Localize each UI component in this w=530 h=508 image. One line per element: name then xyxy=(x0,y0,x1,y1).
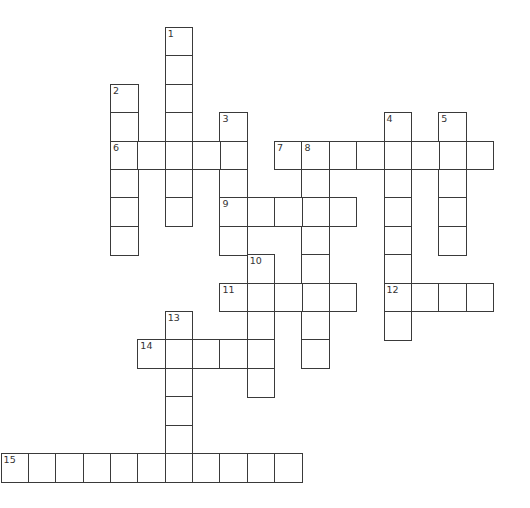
crossword-cell[interactable]: 5 xyxy=(438,112,467,142)
crossword-cell[interactable]: 13 xyxy=(165,311,194,341)
crossword-cell[interactable] xyxy=(329,197,358,227)
crossword-cell[interactable] xyxy=(165,425,194,455)
crossword-cell[interactable]: 3 xyxy=(219,112,248,142)
crossword-cell[interactable] xyxy=(165,339,194,369)
crossword-cell[interactable]: 12 xyxy=(384,283,413,313)
clue-number: 15 xyxy=(4,455,16,465)
crossword-cell[interactable] xyxy=(247,283,276,313)
crossword-cell[interactable]: 14 xyxy=(137,339,166,369)
crossword-cell[interactable]: 9 xyxy=(219,197,248,227)
crossword-cell[interactable] xyxy=(28,453,57,483)
crossword-cell[interactable] xyxy=(247,368,276,398)
crossword-cell[interactable] xyxy=(165,55,194,85)
clue-number: 7 xyxy=(277,143,283,153)
crossword-cell[interactable] xyxy=(55,453,84,483)
crossword-cell[interactable] xyxy=(301,311,330,341)
clue-number: 13 xyxy=(168,313,180,323)
crossword-cell[interactable] xyxy=(384,311,413,341)
crossword-cell[interactable]: 2 xyxy=(110,84,139,114)
crossword-cell[interactable] xyxy=(165,368,194,398)
crossword-cell[interactable] xyxy=(165,141,194,171)
crossword-cell[interactable] xyxy=(192,339,221,369)
crossword-cell[interactable] xyxy=(137,141,166,171)
crossword-cell[interactable] xyxy=(411,283,440,313)
crossword-cell[interactable] xyxy=(356,141,385,171)
crossword-cell[interactable] xyxy=(247,197,276,227)
crossword-cell[interactable] xyxy=(274,453,303,483)
crossword-cell[interactable]: 15 xyxy=(1,453,30,483)
crossword-cell[interactable] xyxy=(329,141,358,171)
crossword-cell[interactable]: 6 xyxy=(110,141,139,171)
crossword-cell[interactable] xyxy=(110,226,139,256)
clue-number: 12 xyxy=(387,285,399,295)
clue-number: 9 xyxy=(222,199,228,209)
crossword-cell[interactable] xyxy=(301,169,330,199)
crossword-cell[interactable] xyxy=(192,453,221,483)
clue-number: 14 xyxy=(140,341,152,351)
crossword-cell[interactable] xyxy=(329,283,358,313)
crossword-cell[interactable] xyxy=(219,339,248,369)
clue-number: 1 xyxy=(168,29,174,39)
crossword-cell[interactable] xyxy=(438,283,467,313)
crossword-cell[interactable] xyxy=(219,453,248,483)
crossword-cell[interactable] xyxy=(165,84,194,114)
crossword-cell[interactable] xyxy=(165,112,194,142)
clue-number: 6 xyxy=(113,143,119,153)
clue-number: 11 xyxy=(222,285,234,295)
crossword-cell[interactable] xyxy=(110,169,139,199)
crossword-cell[interactable] xyxy=(384,169,413,199)
crossword-cell[interactable] xyxy=(110,197,139,227)
crossword-cell[interactable] xyxy=(274,283,303,313)
crossword-cell[interactable] xyxy=(247,311,276,341)
crossword-cell[interactable] xyxy=(438,226,467,256)
clue-number: 3 xyxy=(222,114,228,124)
crossword-cell[interactable] xyxy=(438,141,467,171)
crossword-cell[interactable] xyxy=(165,396,194,426)
crossword-cell[interactable]: 10 xyxy=(247,254,276,284)
crossword-cell[interactable] xyxy=(301,283,330,313)
crossword-cell[interactable]: 7 xyxy=(274,141,303,171)
crossword-cell[interactable]: 4 xyxy=(384,112,413,142)
crossword-cell[interactable]: 11 xyxy=(219,283,248,313)
clue-number: 10 xyxy=(250,256,262,266)
crossword-cell[interactable] xyxy=(274,197,303,227)
crossword-cell[interactable] xyxy=(165,453,194,483)
crossword-cell[interactable] xyxy=(219,169,248,199)
clue-number: 8 xyxy=(304,143,310,153)
clue-number: 5 xyxy=(441,114,447,124)
crossword-cell[interactable] xyxy=(247,339,276,369)
crossword-cell[interactable] xyxy=(384,226,413,256)
crossword-cell[interactable] xyxy=(110,453,139,483)
crossword-cell[interactable] xyxy=(384,141,413,171)
crossword-cell[interactable] xyxy=(384,254,413,284)
crossword-cell[interactable] xyxy=(411,141,440,171)
crossword-cell[interactable] xyxy=(438,169,467,199)
crossword-cell[interactable] xyxy=(301,226,330,256)
crossword-cell[interactable] xyxy=(301,339,330,369)
crossword-cell[interactable] xyxy=(83,453,112,483)
crossword-cell[interactable] xyxy=(137,453,166,483)
crossword-cell[interactable] xyxy=(301,197,330,227)
crossword-cell[interactable] xyxy=(384,197,413,227)
crossword-cell[interactable]: 8 xyxy=(301,141,330,171)
crossword-cell[interactable] xyxy=(247,453,276,483)
crossword-cell[interactable] xyxy=(110,112,139,142)
crossword-cell[interactable] xyxy=(219,141,248,171)
crossword-grid: 126394125781011131415 xyxy=(0,0,530,508)
crossword-cell[interactable]: 1 xyxy=(165,27,194,57)
crossword-cell[interactable] xyxy=(438,197,467,227)
clue-number: 2 xyxy=(113,86,119,96)
clue-number: 4 xyxy=(387,114,393,124)
crossword-cell[interactable] xyxy=(192,141,221,171)
crossword-cell[interactable] xyxy=(165,197,194,227)
crossword-cell[interactable] xyxy=(301,254,330,284)
crossword-cell[interactable] xyxy=(165,169,194,199)
crossword-cell[interactable] xyxy=(466,141,495,171)
crossword-cell[interactable] xyxy=(466,283,495,313)
crossword-cell[interactable] xyxy=(219,226,248,256)
